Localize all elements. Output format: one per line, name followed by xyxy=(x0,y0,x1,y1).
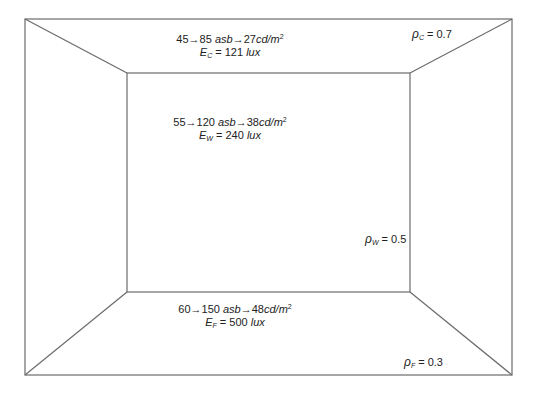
wall-reflectance: ρW = 0.5 xyxy=(365,232,406,246)
back-wall xyxy=(127,73,410,292)
wall-illuminance-line: EW = 240 lux xyxy=(155,129,305,142)
edge-top-left xyxy=(25,19,127,73)
floor-reflectance: ρF = 0.3 xyxy=(404,355,443,369)
floor-luminance-label: 60→150 asb→48cd/m2 EF = 500 lux xyxy=(160,303,310,329)
floor-luminance-line: 60→150 asb→48cd/m2 xyxy=(160,303,310,316)
ceiling-reflectance: ρC = 0.7 xyxy=(412,27,452,41)
floor-illuminance-line: EF = 500 lux xyxy=(160,316,310,329)
room-perspective-drawing xyxy=(0,0,537,397)
ceiling-illuminance-line: EC = 121 lux xyxy=(160,46,300,59)
wall-luminance-label: 55→120 asb→38cd/m2 EW = 240 lux xyxy=(155,116,305,142)
ceiling-luminance-line: 45→85 asb→27cd/m2 xyxy=(160,33,300,46)
wall-luminance-line: 55→120 asb→38cd/m2 xyxy=(155,116,305,129)
edge-bottom-left xyxy=(25,292,127,375)
ceiling-luminance-label: 45→85 asb→27cd/m2 EC = 121 lux xyxy=(160,33,300,59)
